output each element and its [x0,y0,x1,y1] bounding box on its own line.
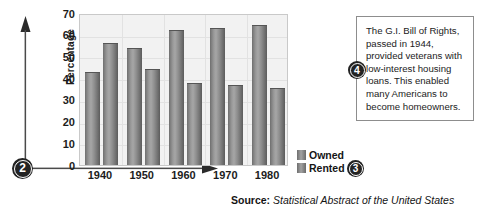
x-tick-label: 1970 [203,169,247,181]
bar-owned-1980 [252,25,267,165]
x-tick-label: 1950 [120,169,164,181]
marker-4-label: 4 [348,61,366,79]
bar-group [169,15,203,165]
y-tick-label: 60 [52,30,75,41]
gridline-vertical [247,15,248,165]
y-tick-label: 10 [52,139,75,150]
legend-swatch-owned [297,150,306,160]
y-tick-label: 30 [52,95,75,106]
legend-label: Rented [309,162,345,174]
figure-root: 2 Percentage 010203040506070 19401950196… [0,0,481,213]
callout-marker-3[interactable]: 3 [347,160,364,177]
y-tick-label: 70 [52,9,75,20]
bar-owned-1970 [210,28,225,165]
source-line: Source: Statistical Abstract of the Unit… [231,194,454,206]
bar-group [252,15,286,165]
bar-group [210,15,244,165]
legend-label: Owned [309,149,344,161]
up-arrow-icon [19,16,32,161]
y-tick-label: 50 [52,52,75,63]
callout-box: The G.I. Bill of Rights, passed in 1944,… [356,16,474,121]
x-axis-ticks: 19401950196019701980 [79,169,288,185]
marker-3-label: 3 [347,160,364,177]
bar-group [127,15,161,165]
bar-chart: Percentage 010203040506070 1940195019601… [36,6,306,186]
bar-owned-1960 [169,30,184,165]
x-tick-label: 1940 [78,169,122,181]
bar-rented-1950 [145,69,160,165]
bar-rented-1970 [228,85,243,165]
chart-legend: OwnedRented [297,148,345,174]
gridline-vertical [164,15,165,165]
y-tick-label: 20 [52,117,75,128]
y-axis-ticks: 010203040506070 [52,14,75,166]
bar-rented-1980 [270,88,285,165]
source-title: Statistical Abstract of the United State… [273,194,454,206]
source-label: Source: [231,194,270,206]
gridline-vertical [205,15,206,165]
x-tick-label: 1960 [162,169,206,181]
callout-marker-4[interactable]: 4 [348,61,366,79]
y-tick-label: 40 [52,74,75,85]
bar-group [85,15,119,165]
plot-area [79,14,288,166]
legend-item-owned[interactable]: Owned [297,148,345,161]
legend-item-rented[interactable]: Rented [297,161,345,174]
marker-2-label: 2 [12,158,33,179]
bar-owned-1940 [85,72,100,165]
y-tick-label: 0 [52,161,75,172]
callout-text: The G.I. Bill of Rights, passed in 1944,… [366,25,466,113]
gridline-vertical [122,15,123,165]
callout-marker-2[interactable]: 2 [12,158,33,179]
bar-rented-1960 [187,83,202,166]
bar-rented-1940 [103,43,118,165]
legend-swatch-rented [297,163,306,173]
bar-owned-1950 [127,48,142,165]
x-tick-label: 1980 [245,169,289,181]
